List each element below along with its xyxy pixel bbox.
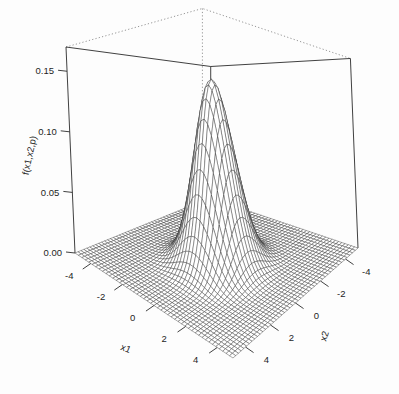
x1-tick-label: -4: [65, 270, 73, 281]
surface-plot-canvas: 0.000.050.100.15f(x1,x2,p)-4-2024x1420-2…: [0, 0, 399, 394]
x2-tick: [271, 325, 279, 331]
x1-tick: [83, 264, 91, 270]
z-axis-line: [66, 47, 75, 253]
z-tick: [61, 131, 70, 132]
box-back-top-edges: [66, 8, 350, 58]
bounding-box-top-front: [66, 47, 350, 66]
z-axis-title: f(x1,x2,p): [20, 135, 39, 176]
x2-tick-label: 0: [314, 310, 319, 321]
x2-tick: [246, 347, 254, 353]
x1-tick: [146, 306, 154, 312]
x1-tick: [209, 348, 217, 354]
z-tick-label: 0.05: [41, 187, 60, 198]
x2-tick: [296, 303, 304, 309]
x2-tick-label: -4: [362, 266, 370, 277]
z-tick-label: 0.15: [36, 65, 55, 76]
x1-tick-label: 4: [193, 354, 198, 365]
x2-tick: [321, 281, 329, 287]
z-tick-label: 0.10: [38, 126, 57, 137]
z-tick: [58, 70, 67, 71]
x1-tick: [114, 285, 122, 291]
box-top-front-edges: [66, 47, 350, 66]
x2-tick-label: 4: [264, 354, 269, 365]
x2-tick: [346, 259, 354, 265]
x1-tick-label: -2: [97, 291, 105, 302]
x2-tick-label: -2: [337, 288, 345, 299]
z-tick: [63, 191, 72, 192]
box-right-vertical: [350, 58, 358, 248]
surface-plot: 0.000.050.100.15f(x1,x2,p)-4-2024x1420-2…: [0, 0, 399, 394]
x1-tick-label: 2: [162, 333, 167, 344]
z-tick-label: 0.00: [44, 247, 63, 258]
x2-axis-title: x2: [317, 330, 330, 343]
x1-tick: [178, 327, 186, 333]
x1-tick-label: 0: [130, 312, 135, 323]
x2-tick-label: 2: [289, 332, 294, 343]
z-tick: [66, 252, 75, 253]
x1-axis-title: x1: [119, 341, 132, 355]
